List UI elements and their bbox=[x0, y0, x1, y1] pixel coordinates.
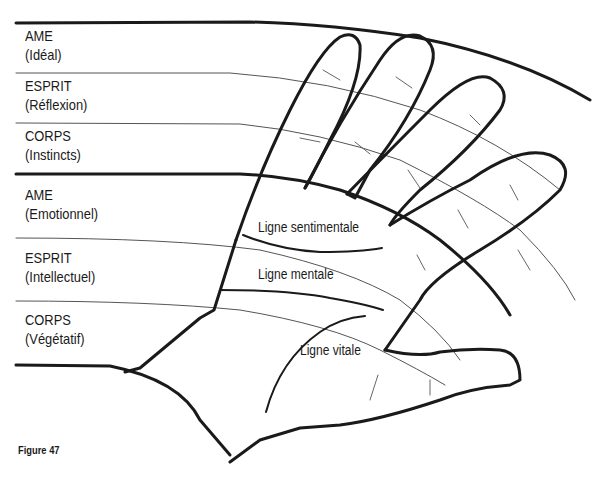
figure-caption: Figure 47 bbox=[18, 444, 60, 456]
separator-ideal-reflexion bbox=[16, 73, 560, 190]
zone-sub: (Emotionnel) bbox=[25, 204, 98, 223]
zone-sub: (Instincts) bbox=[25, 145, 81, 164]
zone-sub: (Végétatif) bbox=[25, 329, 85, 348]
middle-finger-outline bbox=[305, 35, 433, 198]
zone-name: ESPRIT bbox=[25, 248, 95, 267]
hand-diagram bbox=[0, 0, 595, 483]
zone-label-esprit-reflexion: ESPRIT (Réflexion) bbox=[25, 76, 87, 114]
palmistry-figure: AME (Idéal) ESPRIT (Réflexion) CORPS (In… bbox=[0, 0, 595, 483]
zone-name: CORPS bbox=[25, 310, 85, 329]
zone-name: AME bbox=[25, 26, 62, 45]
head-line-label: Ligne mentale bbox=[258, 266, 334, 282]
zone-name: CORPS bbox=[25, 126, 81, 145]
zone-label-corps-instincts: CORPS (Instincts) bbox=[25, 126, 81, 164]
zone-name: AME bbox=[25, 185, 98, 204]
little-finger-outline bbox=[385, 153, 566, 350]
heart-line-label: Ligne sentimentale bbox=[258, 219, 359, 235]
zone-label-esprit-intellectuel: ESPRIT (Intellectuel) bbox=[25, 248, 95, 286]
life-line bbox=[266, 316, 365, 412]
index-finger-outline bbox=[236, 35, 360, 240]
zone-label-ame-emotionnel: AME (Emotionnel) bbox=[25, 185, 98, 223]
life-line-label: Ligne vitale bbox=[300, 342, 361, 358]
zone-sub: (Réflexion) bbox=[25, 95, 87, 114]
thumb-outline bbox=[230, 349, 520, 462]
zone-label-corps-vegetatif: CORPS (Végétatif) bbox=[25, 310, 85, 348]
zone-sub: (Idéal) bbox=[25, 45, 62, 64]
zone-sub: (Intellectuel) bbox=[25, 267, 95, 286]
bottom-boundary-line bbox=[16, 365, 230, 455]
zone-name: ESPRIT bbox=[25, 76, 87, 95]
heart-line bbox=[243, 235, 382, 252]
zone-label-ame-ideal: AME (Idéal) bbox=[25, 26, 62, 64]
palm-left-outline bbox=[125, 240, 236, 372]
head-line bbox=[220, 290, 383, 310]
